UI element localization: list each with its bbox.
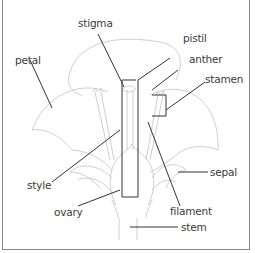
pistil-bracket — [122, 58, 170, 197]
label-ovary: ovary — [54, 207, 83, 218]
label-style: style — [27, 180, 51, 191]
style-leader — [52, 130, 120, 182]
label-stigma: stigma — [78, 18, 113, 29]
flower-diagram: stigma pistil petal anther stamen style … — [0, 0, 255, 253]
stamen-leader — [166, 82, 205, 110]
label-pistil: pistil — [183, 33, 207, 44]
label-stem: stem — [181, 222, 206, 233]
anther-leader — [152, 70, 178, 90]
left-petal-outline — [32, 88, 112, 170]
petal-leader — [30, 60, 52, 108]
label-filament: filament — [170, 206, 212, 217]
label-stamen: stamen — [205, 74, 243, 85]
flower-illustration — [0, 0, 255, 253]
left-sepal-outline — [70, 166, 112, 188]
stigma-outline — [123, 86, 135, 92]
stigma-leader — [98, 34, 124, 87]
label-anther: anther — [189, 54, 222, 65]
right-petal-outline — [150, 89, 218, 172]
label-sepal: sepal — [210, 167, 237, 178]
label-petal: petal — [15, 55, 41, 66]
back-petal-outline — [70, 39, 180, 80]
